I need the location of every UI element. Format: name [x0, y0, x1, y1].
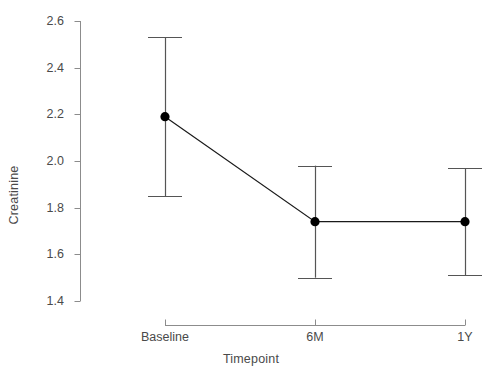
data-series-creatinine [148, 37, 482, 278]
data-point-marker [460, 217, 469, 226]
plot-area [0, 0, 502, 390]
data-point-marker [160, 112, 169, 121]
errorbar-chart-figure: Creatinine 2.6 2.4 2.2 2.0 1.8 1.6 1.4 B… [0, 0, 502, 390]
y-axis [75, 21, 81, 302]
data-point-marker [310, 217, 319, 226]
x-axis [165, 320, 466, 326]
